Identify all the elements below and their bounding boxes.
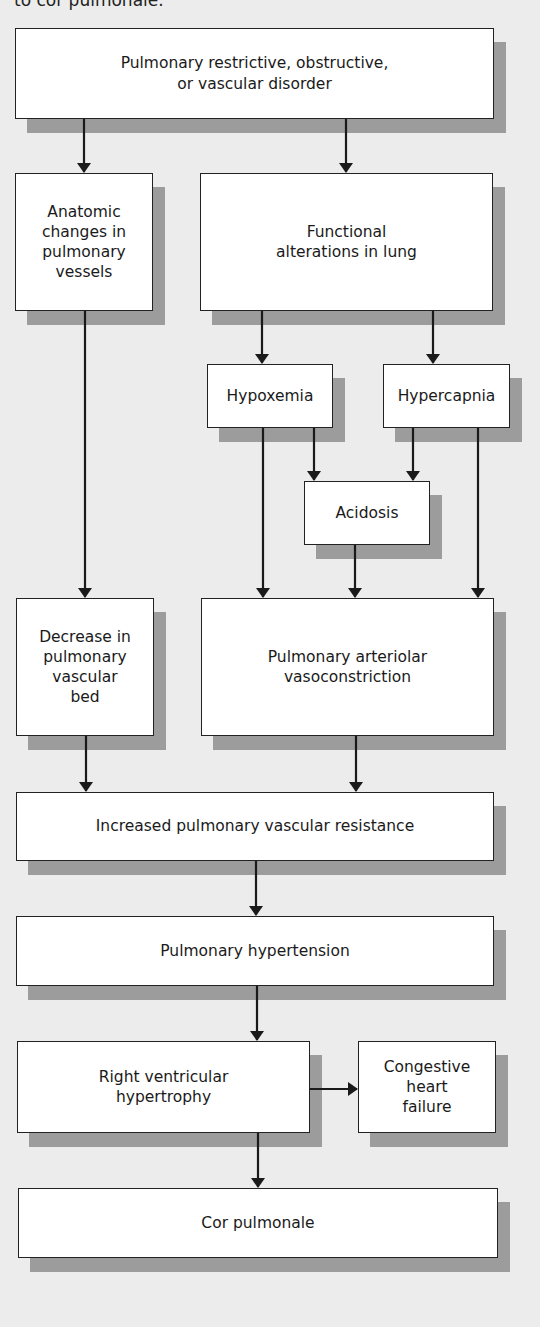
node-arteriolar-vasoconstriction: Pulmonary arteriolar vasoconstriction xyxy=(201,598,494,736)
node-pulmonary-hypertension: Pulmonary hypertension xyxy=(16,916,494,986)
node-disorder: Pulmonary restrictive, obstructive, or v… xyxy=(15,28,494,119)
node-hypercapnia: Hypercapnia xyxy=(383,364,510,428)
node-rv-hypertrophy: Right ventricular hypertrophy xyxy=(17,1041,310,1133)
node-anatomic-changes: Anatomic changes in pulmonary vessels xyxy=(15,173,153,311)
node-acidosis: Acidosis xyxy=(304,481,430,545)
node-cor-pulmonale: Cor pulmonale xyxy=(18,1188,498,1258)
node-functional-alterations: Functional alterations in lung xyxy=(200,173,493,311)
node-hypoxemia: Hypoxemia xyxy=(207,364,333,428)
node-increased-resistance: Increased pulmonary vascular resistance xyxy=(16,792,494,861)
node-congestive-heart-failure: Congestive heart failure xyxy=(358,1041,496,1133)
figure-caption: to cor pulmonale. xyxy=(14,0,164,10)
node-decrease-vascular-bed: Decrease in pulmonary vascular bed xyxy=(16,598,154,736)
